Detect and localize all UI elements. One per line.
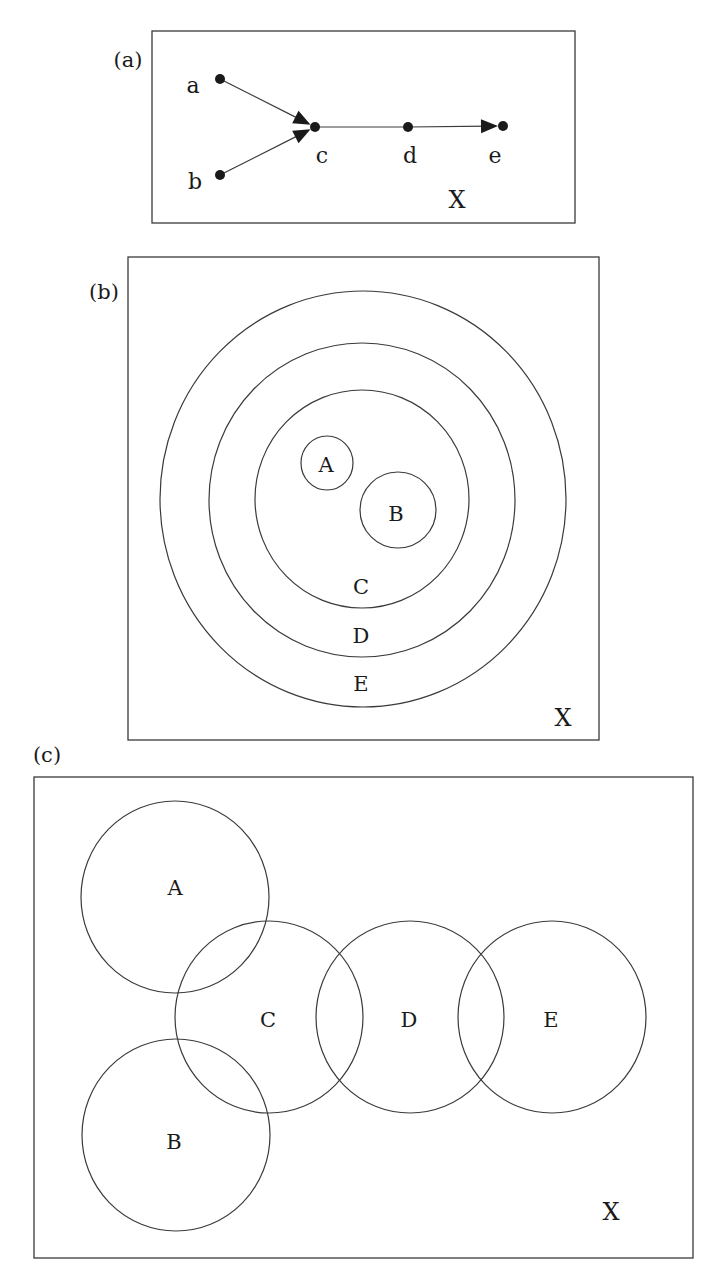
set-label-d: D [353, 624, 370, 648]
universe-label-x: X [602, 1198, 619, 1226]
graph-node-a [215, 74, 225, 84]
set-label-d: D [401, 1008, 418, 1032]
set-label-b: B [388, 502, 403, 526]
set-label-a: A [317, 453, 334, 477]
set-label-c: C [353, 575, 369, 599]
set-label-a: A [166, 876, 183, 900]
set-label-b: B [166, 1130, 181, 1154]
edge-d-e [408, 126, 488, 127]
set-label-c: C [260, 1008, 276, 1032]
panel-a-directed-graph: (a) abcde X [114, 31, 575, 223]
set-shapes: EDCAB [160, 291, 566, 707]
node-label-d: d [403, 143, 417, 168]
graph-node-b [215, 170, 225, 180]
arrowhead-icon [292, 129, 310, 143]
panel-c-label: (c) [33, 743, 61, 767]
universe-label-x: X [554, 704, 571, 732]
panel-c-overlapping-sets: (c) ACDEB X [33, 743, 693, 1258]
graph-node-c [310, 122, 320, 132]
graph-node-e [498, 121, 508, 131]
panel-b-frame [128, 257, 599, 740]
panel-b-nested-sets: (b) EDCAB X [89, 257, 599, 740]
node-label-b: b [188, 169, 202, 194]
arrowhead-icon [481, 119, 498, 133]
set-label-e: E [353, 672, 368, 696]
edge-a-c [220, 79, 301, 120]
graph-nodes: abcde [186, 73, 508, 194]
graph-node-d [403, 122, 413, 132]
panel-a-label: (a) [114, 48, 143, 72]
node-label-e: e [488, 143, 501, 168]
universe-label-x: X [448, 186, 465, 214]
arrowhead-icon [292, 111, 310, 125]
graph-edges [220, 79, 498, 175]
figure-canvas: (a) abcde X (b) EDCAB X (c) ACDEB X [0, 0, 717, 1287]
node-label-c: c [316, 143, 328, 168]
edge-b-c [220, 134, 301, 175]
set-label-e: E [543, 1008, 558, 1032]
panel-b-label: (b) [89, 280, 119, 304]
set-shapes: ACDEB [81, 801, 646, 1231]
node-label-a: a [186, 73, 199, 98]
